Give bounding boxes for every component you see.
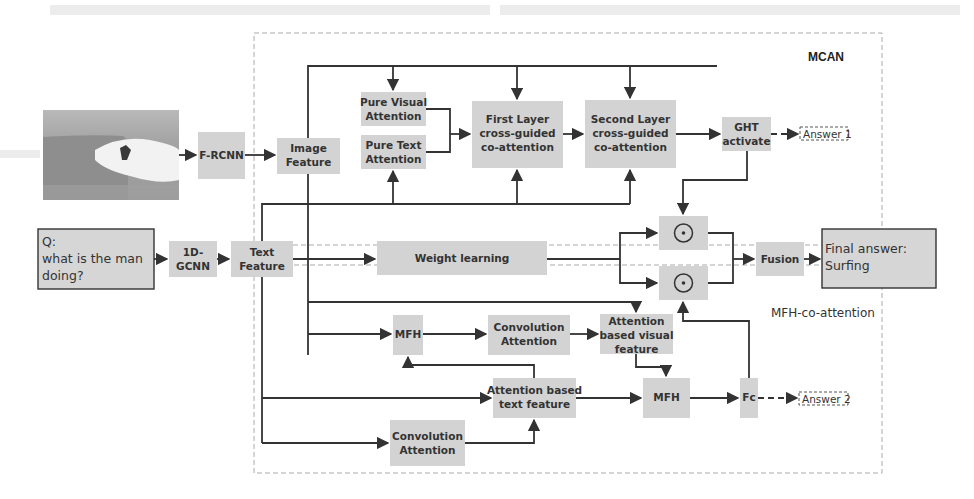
mfh-bottom-node: MFH — [643, 378, 690, 418]
text-feature-node: Text Feature — [231, 241, 293, 277]
question-text-line2: doing? — [42, 268, 84, 283]
first-layer-label-3: co-attention — [481, 141, 554, 153]
final-answer-box: Final answer: Surfing — [822, 229, 936, 288]
edge-fc-hadamardbottom — [683, 302, 749, 378]
edge-hadamard-merge — [708, 233, 733, 283]
edge-atttext-mfhtop — [408, 357, 534, 378]
attention-visual-feature-node: Attention based visual feature — [600, 314, 674, 355]
convolution-attention-bottom-node: Convolution Attention — [390, 420, 465, 466]
frcnn-label: F-RCNN — [199, 149, 244, 161]
mfh-co-attention-group — [254, 265, 882, 473]
pure-visual-attention-node: Pure Visual Attention — [360, 92, 427, 126]
att-text-label-1: Attention based — [487, 384, 582, 396]
weight-learning-label: Weight learning — [415, 252, 510, 264]
question-box: Q: what is the man doing? — [38, 229, 154, 289]
pure-text-attention-node: Pure Text Attention — [361, 135, 426, 169]
edge-weight-hadamardbottom — [620, 259, 657, 283]
image-feature-node: Image Feature — [277, 138, 340, 174]
edge-convattbottom-atttext — [465, 420, 534, 443]
pure-visual-label-1: Pure Visual — [360, 96, 427, 108]
fusion-label: Fusion — [761, 253, 800, 265]
input-image[interactable] — [43, 110, 179, 200]
mcan-label: MCAN — [808, 50, 844, 64]
final-answer-label: Final answer: — [825, 241, 907, 256]
conv-att-bottom-label-1: Convolution — [392, 430, 463, 442]
question-text-line1: what is the man — [42, 251, 143, 266]
frcnn-node: F-RCNN — [198, 132, 245, 179]
conv-att-bottom-label-2: Attention — [399, 444, 455, 456]
att-visual-label-3: feature — [615, 343, 659, 355]
gcnn-label-1: 1D- — [183, 246, 204, 258]
first-layer-label-2: cross-guided — [479, 127, 555, 139]
pure-text-label-2: Attention — [365, 153, 421, 165]
mfh-top-label: MFH — [395, 328, 421, 340]
mfh-top-node: MFH — [393, 315, 423, 355]
edge-attvisual-mfhbottom — [636, 354, 666, 376]
second-layer-coattention-node: Second Layer cross-guided co-attention — [585, 100, 676, 168]
att-visual-label-2: based visual — [600, 329, 674, 341]
first-layer-label-1: First Layer — [486, 113, 550, 125]
ght-activate-node: GHT activate — [722, 117, 771, 151]
att-text-label-2: text feature — [499, 398, 570, 410]
edge-pure-merge — [426, 109, 450, 152]
architecture-diagram: MCAN MFH-co-attention Q: what is the man… — [0, 0, 974, 499]
att-visual-label-1: Attention — [608, 315, 664, 327]
edge-imagefeature-attvisual — [308, 302, 636, 312]
first-layer-coattention-node: First Layer cross-guided co-attention — [472, 101, 563, 168]
conv-att-top-label-2: Attention — [501, 335, 557, 347]
fusion-node: Fusion — [756, 242, 804, 276]
mcan-group — [254, 33, 882, 245]
mfh-co-attention-label: MFH-co-attention — [771, 306, 875, 320]
conv-att-top-label-1: Convolution — [494, 321, 565, 333]
edge-weight-hadamardtop — [620, 233, 657, 259]
weight-learning-node: Weight learning — [377, 241, 547, 275]
second-layer-label-1: Second Layer — [591, 113, 671, 125]
answer-1: Answer 1 — [800, 127, 852, 140]
second-layer-label-3: co-attention — [594, 141, 667, 153]
second-layer-label-2: cross-guided — [592, 127, 668, 139]
hadamard-op-top — [659, 216, 708, 250]
edge-textfeature-bottombus — [262, 204, 630, 241]
ght-label-1: GHT — [734, 121, 759, 133]
gcnn-node: 1D- GCNN — [169, 241, 217, 277]
fc-label: Fc — [742, 391, 755, 403]
edge-ght-hadamardtop — [683, 151, 747, 214]
final-answer-value: Surfing — [825, 258, 870, 273]
text-feature-label-1: Text — [250, 246, 275, 258]
attention-text-feature-node: Attention based text feature — [487, 378, 582, 418]
pure-text-label-1: Pure Text — [366, 139, 422, 151]
text-feature-label-2: Feature — [239, 260, 285, 272]
answer-1-label: Answer 1 — [803, 128, 852, 140]
ght-label-2: activate — [723, 135, 771, 147]
answer-2-label: Answer 2 — [802, 393, 851, 405]
question-prefix: Q: — [42, 234, 56, 249]
gcnn-label-2: GCNN — [176, 260, 210, 272]
hadamard-op-bottom — [659, 266, 708, 300]
mfh-bottom-label: MFH — [653, 391, 679, 403]
image-feature-label-2: Feature — [286, 156, 332, 168]
image-feature-label-1: Image — [290, 142, 327, 154]
answer-2: Answer 2 — [799, 392, 851, 405]
convolution-attention-top-node: Convolution Attention — [488, 315, 570, 355]
pure-visual-label-2: Attention — [365, 110, 421, 122]
fc-node: Fc — [740, 378, 758, 418]
